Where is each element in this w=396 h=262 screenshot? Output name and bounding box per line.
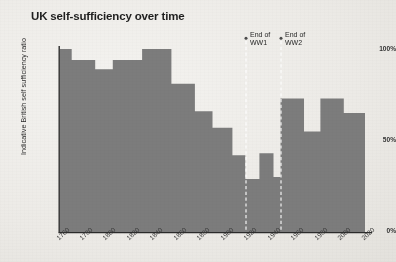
- annotation-label-ww1-line1: End of: [250, 31, 270, 39]
- annotation-marker-ww1: [245, 37, 248, 40]
- annotation-marker-ww2: [280, 37, 283, 40]
- chart-figure: UK self-sufficiency over time Indicative…: [0, 0, 396, 262]
- annotation-label-ww1-line2: WW1: [250, 39, 270, 47]
- annotation-label-ww2: End of WW2: [285, 31, 305, 48]
- series-area-self-sufficiency: [60, 49, 365, 232]
- plot-area: [0, 0, 396, 262]
- annotation-label-ww2-line1: End of: [285, 31, 305, 39]
- annotation-label-ww2-line2: WW2: [285, 39, 305, 47]
- annotation-label-ww1: End of WW1: [250, 31, 270, 48]
